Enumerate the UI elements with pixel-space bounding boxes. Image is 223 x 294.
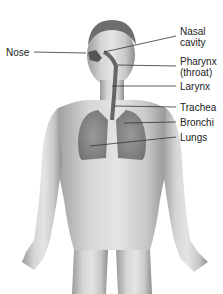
left-arm	[22, 108, 62, 270]
label-lungs: Lungs	[180, 132, 207, 143]
respiratory-diagram: Nose Nasal cavity Pharynx (throat) Laryn…	[0, 0, 223, 294]
label-pharynx-line2: (throat)	[180, 67, 217, 78]
label-nasal-cavity-line2: cavity	[180, 37, 206, 48]
label-pharynx-line1: Pharynx	[180, 56, 217, 67]
label-bronchi: Bronchi	[180, 117, 214, 128]
label-nasal-cavity-line1: Nasal	[180, 26, 206, 37]
head	[87, 20, 136, 86]
label-trachea: Trachea	[180, 102, 216, 113]
label-larynx: Larynx	[180, 81, 210, 92]
label-nose: Nose	[6, 47, 29, 58]
label-nasal-cavity: Nasal cavity	[180, 26, 206, 48]
label-pharynx: Pharynx (throat)	[180, 56, 217, 78]
left-leg	[72, 250, 108, 294]
right-leg	[116, 250, 152, 294]
